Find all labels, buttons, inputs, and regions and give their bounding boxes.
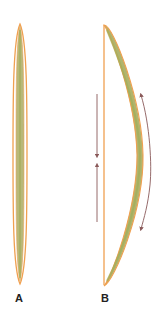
panel-label-b: B	[101, 292, 109, 304]
rod-a	[13, 24, 27, 284]
diagram-canvas	[0, 0, 160, 314]
rod-b-bow-fill	[104, 25, 143, 286]
panel-label-a: A	[15, 292, 23, 304]
rod-b	[104, 25, 143, 286]
